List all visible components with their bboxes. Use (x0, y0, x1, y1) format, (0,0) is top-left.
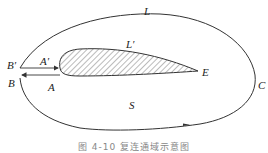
label-A: A (48, 82, 55, 93)
label-B-prime: B′ (7, 60, 16, 71)
label-E: E (202, 67, 209, 78)
figure-caption: 图 4-10 复连通域示意图 (0, 140, 268, 153)
label-A-prime: A′ (40, 56, 49, 67)
label-C: C (258, 80, 265, 91)
label-L: L (144, 6, 150, 17)
airfoil-contour-L-prime (60, 49, 198, 76)
label-B: B (8, 78, 15, 89)
multiply-connected-domain-diagram (0, 0, 268, 153)
label-S: S (129, 100, 135, 111)
label-L-prime: L′ (126, 39, 135, 50)
